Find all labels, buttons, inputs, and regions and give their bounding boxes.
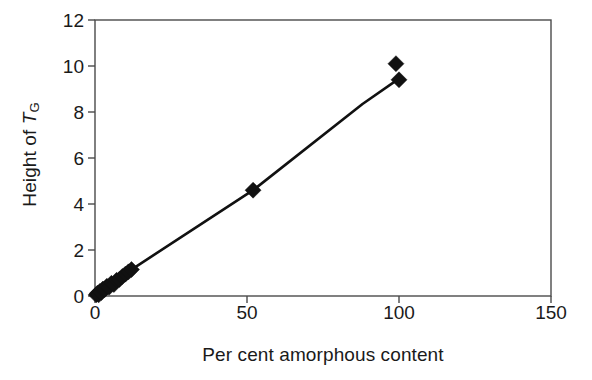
data-point-marker (391, 72, 407, 88)
data-point-marker (388, 56, 404, 72)
axis-frame (95, 20, 551, 296)
tick-marks (88, 20, 551, 303)
trend-line (95, 79, 399, 296)
chart-figure: Height of TG Per cent amorphous content … (0, 0, 592, 380)
trend-line-path (95, 79, 399, 296)
plot-area (0, 0, 592, 380)
data-point-group (88, 56, 407, 303)
